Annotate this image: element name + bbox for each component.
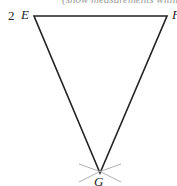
vertex-label-e: E [21,7,29,23]
vertex-label-f: F [172,7,177,23]
triangle-efg [34,16,167,173]
vertex-label-g: G [94,174,103,186]
triangle-diagram [0,0,177,186]
